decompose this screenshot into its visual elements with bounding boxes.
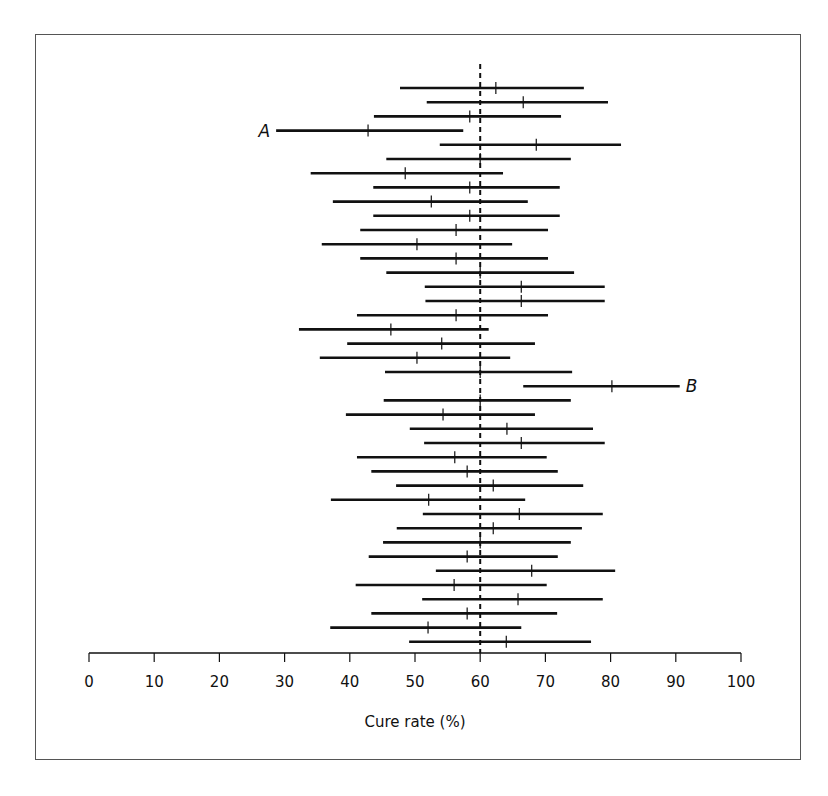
ci-row — [333, 196, 528, 208]
forest-plot: AB 0102030405060708090100 Cure rate (%) — [0, 0, 828, 796]
ci-row — [422, 593, 603, 605]
ci-row — [386, 267, 574, 279]
x-axis: 0102030405060708090100 — [84, 653, 755, 691]
ci-row — [373, 181, 559, 193]
x-tick-label: 30 — [275, 673, 294, 691]
ci-row — [425, 281, 605, 293]
ci-row — [331, 494, 525, 506]
x-tick-label: 10 — [145, 673, 164, 691]
ci-row — [311, 167, 503, 179]
confidence-intervals: AB — [257, 82, 697, 648]
x-tick-label: 50 — [405, 673, 424, 691]
ci-row — [436, 565, 615, 577]
ci-row — [425, 295, 604, 307]
ci-row — [374, 110, 561, 122]
ci-row — [386, 153, 571, 165]
x-tick-label: 60 — [471, 673, 490, 691]
x-tick-label: 40 — [340, 673, 359, 691]
ci-row — [346, 409, 535, 421]
ci-row — [373, 210, 559, 222]
ci-row — [371, 465, 557, 477]
annotation-b: B — [686, 376, 698, 396]
ci-row — [360, 252, 548, 264]
x-tick-label: 20 — [210, 673, 229, 691]
x-tick-label: 80 — [601, 673, 620, 691]
ci-row — [322, 238, 512, 250]
ci-row — [299, 323, 489, 335]
ci-row — [424, 437, 605, 449]
x-tick-label: 100 — [727, 673, 756, 691]
ci-row — [410, 423, 593, 435]
ci-row — [440, 139, 621, 151]
ci-row — [397, 522, 582, 534]
ci-row — [330, 622, 521, 634]
ci-row — [409, 636, 591, 648]
x-axis-label: Cure rate (%) — [364, 713, 465, 731]
ci-row: B — [523, 376, 697, 396]
ci-row — [427, 96, 608, 108]
ci-row — [356, 579, 547, 591]
ci-row — [357, 451, 547, 463]
ci-row — [385, 366, 572, 378]
x-tick-label: 0 — [84, 673, 94, 691]
ci-row — [400, 82, 584, 94]
ci-row — [369, 551, 558, 563]
ci-row — [320, 352, 510, 364]
ci-row — [357, 309, 548, 321]
ci-row — [371, 607, 557, 619]
ci-row — [423, 508, 603, 520]
ci-row — [384, 394, 571, 406]
ci-row: A — [257, 121, 463, 141]
ci-row — [347, 338, 535, 350]
annotation-a: A — [257, 121, 270, 141]
x-tick-label: 90 — [666, 673, 685, 691]
ci-row — [396, 480, 583, 492]
x-tick-label: 70 — [536, 673, 555, 691]
ci-row — [360, 224, 548, 236]
ci-row — [383, 536, 571, 548]
